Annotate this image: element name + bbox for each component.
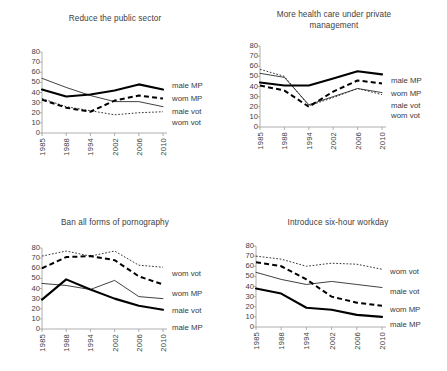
x-axis-tick-label: 2006: [354, 132, 363, 150]
x-axis-tick-label: 2010: [378, 332, 387, 350]
series-line-male-mp: [42, 279, 163, 309]
series-line-wom-mp: [256, 262, 382, 306]
x-axis-tick-label: 1985: [252, 332, 261, 350]
chart-panel-reduce-public-sector: Reduce the public sector 010203040506070…: [0, 0, 230, 190]
x-axis-tick-label: 2010: [159, 334, 168, 352]
x-axis-tick-label: 1988: [62, 334, 71, 352]
legend-label-wom-vot: wom vot: [390, 268, 419, 276]
x-axis-tick-label: 1985: [38, 138, 47, 156]
chart-panel-private-health-care: More health care under private managemen…: [230, 0, 447, 190]
legend-label-wom-vot: wom vot: [391, 112, 420, 120]
legend-label-male-vot: male vot: [172, 307, 201, 315]
x-axis-tick-label: 1988: [277, 332, 286, 350]
series-line-male-vot: [256, 272, 382, 287]
x-axis-tick-label: 2002: [328, 332, 337, 350]
x-axis-tick-label: 1985: [256, 132, 265, 150]
x-axis-tick-label: 1994: [302, 332, 311, 350]
x-axis-tick-label: 2010: [159, 138, 168, 156]
x-axis-tick-label: 2006: [353, 332, 362, 350]
plot-area: [230, 190, 447, 371]
legend-label-wom-mp: wom MP: [172, 95, 202, 103]
x-axis-tick-label: 1994: [305, 132, 314, 150]
legend-label-wom-mp: wom MP: [391, 90, 421, 98]
legend-label-male-mp: male MP: [390, 321, 421, 329]
x-axis-tick-label: 1994: [86, 138, 95, 156]
x-axis-tick-label: 1985: [38, 334, 47, 352]
legend-label-wom-mp: wom MP: [172, 290, 202, 298]
chart-panel-ban-pornography: Ban all forms of pornography 01020304050…: [0, 190, 230, 371]
legend-label-male-mp: male MP: [172, 82, 203, 90]
legend-label-male-mp: male MP: [391, 77, 422, 85]
x-axis-tick-label: 2002: [111, 334, 120, 352]
legend-label-wom-vot: wom vot: [172, 119, 201, 127]
legend-label-male-vot: male vot: [172, 108, 201, 116]
x-axis-tick-label: 2002: [329, 132, 338, 150]
x-axis-tick-label: 2002: [111, 138, 120, 156]
x-axis-tick-label: 2010: [378, 132, 387, 150]
series-line-wom-mp: [42, 256, 163, 284]
x-axis-tick-label: 1988: [62, 138, 71, 156]
x-axis-tick-label: 1988: [280, 132, 289, 150]
legend-label-male-mp: male MP: [172, 324, 203, 332]
series-line-male-mp: [42, 84, 163, 96]
series-line-wom-mp: [42, 96, 163, 112]
series-line-male-mp: [260, 71, 382, 85]
chart-grid: Reduce the public sector 010203040506070…: [0, 0, 447, 371]
x-axis-tick-label: 2006: [135, 334, 144, 352]
axis-lines: [260, 46, 386, 127]
x-axis-tick-label: 1994: [86, 334, 95, 352]
series-line-wom-vot: [256, 256, 382, 269]
legend-label-male-vot: male vot: [391, 102, 420, 110]
x-axis-tick-label: 2006: [135, 138, 144, 156]
legend-label-male-vot: male vot: [390, 288, 419, 296]
legend-label-wom-mp: wom MP: [390, 306, 420, 314]
legend-label-wom-vot: wom vot: [172, 270, 201, 278]
chart-panel-six-hour-workday: Introduce six-hour workday 0102030405060…: [230, 190, 447, 371]
